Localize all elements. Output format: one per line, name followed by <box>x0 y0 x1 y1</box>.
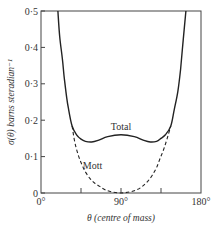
x-axis-ticks: 0°90°180° <box>37 188 211 207</box>
y-axis-ticks: 00·10·20·30·40·5 <box>25 6 45 199</box>
label-mott: Mott <box>83 160 103 171</box>
y-tick-label: 0·5 <box>25 6 38 17</box>
plot-frame <box>41 11 201 193</box>
y-tick-label: 0·4 <box>25 42 38 53</box>
series-lines <box>58 11 186 193</box>
plot-border <box>41 11 201 193</box>
label-total: Total <box>111 121 132 132</box>
y-tick-label: 0·2 <box>25 115 38 126</box>
chart: 00·10·20·30·40·5 0°90°180° TotalMott σ(θ… <box>0 0 219 228</box>
x-tick-label: 90° <box>114 196 128 207</box>
x-tick-label: 180° <box>192 196 211 207</box>
series-annotations: TotalMott <box>83 121 132 171</box>
x-tick-label: 0° <box>37 196 46 207</box>
y-axis-title: σ(θ) barns steradian⁻¹ <box>6 59 17 145</box>
x-axis-title: θ (centre of mass) <box>87 213 155 224</box>
y-tick-label: 0·3 <box>25 78 38 89</box>
y-tick-label: 0·1 <box>25 151 38 162</box>
